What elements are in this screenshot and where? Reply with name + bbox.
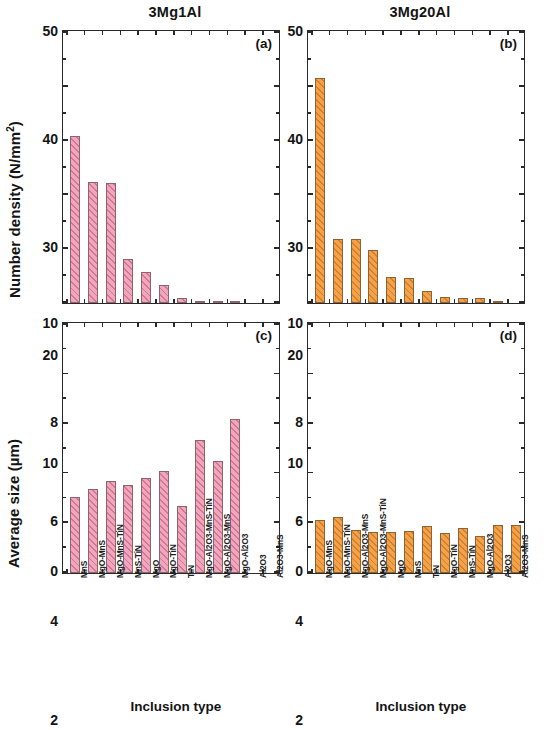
x-axis-category-label: MgO [151, 560, 161, 578]
y-axis-tick-right [519, 139, 524, 141]
y-axis-tick-label: 2 [295, 712, 303, 728]
x-axis-tick-top [137, 323, 139, 327]
y-axis-minor-tick [308, 274, 311, 276]
x-axis-tick-bottom [102, 299, 104, 303]
y-axis-tick: 8 [308, 373, 313, 375]
y-axis-tick-label: 0 [50, 563, 58, 579]
y-axis-minor-tick-right [276, 112, 279, 114]
bar [88, 182, 98, 303]
y-axis-minor-tick [63, 546, 66, 548]
y-axis-tick-label: 8 [50, 414, 58, 430]
x-axis-tick-bottom [400, 299, 402, 303]
y-axis-tick-right [519, 521, 524, 523]
x-axis-tick-top [84, 323, 86, 327]
y-axis-minor-tick [63, 274, 66, 276]
y-axis-tick: 40 [63, 85, 68, 87]
x-axis-tick-top [244, 323, 246, 327]
x-axis-tick-bottom [137, 299, 139, 303]
x-axis-category-label: MgO-MnS [324, 540, 334, 578]
x-axis-category-label: MnS-TiN [133, 545, 143, 578]
x-axis-tick-top [137, 31, 139, 35]
y-axis-tick-right [519, 472, 524, 474]
y-axis-tick: 2 [63, 521, 68, 523]
y-axis-tick: 20 [63, 193, 68, 195]
x-axis-tick-top [472, 31, 474, 35]
x-axis-tick-bottom [454, 299, 456, 303]
column-title-right: 3Mg20Al [305, 4, 535, 20]
y-axis-tick-right [274, 193, 279, 195]
y-axis-minor-tick [63, 58, 66, 60]
y-axis-minor-tick-right [276, 497, 279, 499]
x-axis-category-label: MgO-MnS-TiN [342, 524, 352, 578]
x-axis-title-left: Inclusion type [60, 699, 292, 714]
y-axis-title-text: Number density (N/mm [6, 132, 23, 298]
x-axis-tick-top [347, 31, 349, 35]
y-axis-tick-label: 0 [295, 563, 303, 579]
y-axis-minor-tick [308, 166, 311, 168]
x-axis-tick-bottom [120, 299, 122, 303]
x-axis-tick-top [365, 31, 367, 35]
y-axis-title-number-density: Number density (N/mm2) [5, 121, 23, 298]
y-axis-minor-tick [63, 397, 66, 399]
x-axis-category-label: MnS [413, 561, 423, 578]
bar [177, 298, 187, 303]
bar [106, 183, 116, 303]
y-axis-minor-tick [308, 397, 311, 399]
y-axis-tick-label: 50 [287, 23, 303, 39]
x-axis-tick-top [155, 323, 157, 327]
x-axis-category-label: MgO-Al2O3 [240, 534, 250, 578]
x-axis-tick-top [262, 323, 264, 327]
y-axis-minor-tick [63, 112, 66, 114]
y-axis-tick: 30 [63, 139, 68, 141]
y-axis-minor-tick [308, 220, 311, 222]
x-axis-tick-top [329, 31, 331, 35]
y-axis-tick-right [274, 31, 279, 33]
plot-area-b: 01020304050 [308, 31, 524, 303]
y-axis-minor-tick [308, 348, 311, 350]
bar [386, 277, 396, 303]
y-axis-title-average-size: Average size (µm) [5, 439, 22, 568]
x-axis-tick-top [382, 323, 384, 327]
y-axis-tick-label: 2 [50, 712, 58, 728]
y-axis-title-paren: ) [6, 121, 23, 126]
y-axis-tick-right [519, 193, 524, 195]
x-axis-category-label: TiN [431, 565, 441, 578]
y-axis-tick-label: 4 [50, 613, 58, 629]
x-axis-tick-top [347, 323, 349, 327]
y-axis-minor-tick [308, 497, 311, 499]
x-axis-tick-top [489, 31, 491, 35]
y-axis-minor-tick-right [521, 274, 524, 276]
y-axis-minor-tick [63, 447, 66, 449]
y-axis-minor-tick-right [521, 220, 524, 222]
y-axis-tick-label: 20 [42, 347, 58, 363]
plot-panel-b: 01020304050 (b) [307, 30, 525, 304]
x-axis-tick-top [120, 323, 122, 327]
y-axis-minor-tick-right [521, 166, 524, 168]
x-axis-tick-top [507, 323, 509, 327]
x-axis-category-label: MgO-Al2O3 [485, 534, 495, 578]
x-axis-tick-bottom [382, 299, 384, 303]
panel-letter-d: (d) [500, 328, 517, 343]
bar [493, 301, 503, 303]
x-axis-tick-bottom [173, 299, 175, 303]
x-axis-tick-top [102, 31, 104, 35]
y-axis-minor-tick [63, 497, 66, 499]
y-axis-tick-right [274, 139, 279, 141]
figure-canvas: 3Mg1Al 3Mg20Al Number density (N/mm2) Av… [0, 0, 555, 730]
x-axis-tick-bottom [365, 299, 367, 303]
bar [230, 301, 240, 303]
x-axis-category-label: MnS [79, 561, 89, 578]
y-axis-minor-tick-right [521, 58, 524, 60]
bar [177, 506, 187, 573]
x-axis-tick-top [418, 323, 420, 327]
x-axis-tick-top [102, 323, 104, 327]
y-axis-minor-tick-right [276, 58, 279, 60]
x-axis-tick-top [436, 31, 438, 35]
y-axis-tick-right [519, 31, 524, 33]
y-axis-minor-tick-right [521, 447, 524, 449]
y-axis-tick: 4 [63, 472, 68, 474]
y-axis-minor-tick-right [276, 166, 279, 168]
x-axis-tick-top [191, 323, 193, 327]
x-axis-category-label: MgO-TiN [168, 544, 178, 578]
y-axis-minor-tick [308, 447, 311, 449]
